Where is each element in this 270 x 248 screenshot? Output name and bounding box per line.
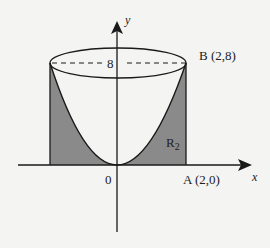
origin-label: 0 [105,172,112,187]
point-a-label: A (2,0) [183,172,220,187]
x-axis-label: x [251,170,258,184]
diagram: y x 8 0 B (2,8) A (2,0) R2 [0,0,270,248]
y-tick-label: 8 [107,56,114,71]
point-b-label: B (2,8) [199,48,236,63]
y-axis-label: y [124,13,131,27]
